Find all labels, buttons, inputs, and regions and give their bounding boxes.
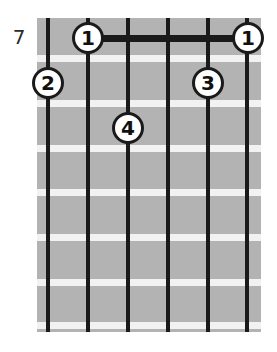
string-line (86, 18, 90, 332)
fret-line (37, 145, 261, 152)
fret-line (37, 234, 261, 241)
fret-line (37, 322, 261, 329)
string-line (166, 18, 170, 332)
finger-marker-4: 4 (112, 112, 144, 144)
finger-marker-1: 1 (72, 22, 104, 54)
string-line (206, 18, 210, 332)
string-line (245, 18, 249, 332)
chord-diagram: 11234 7 (0, 0, 277, 352)
fret-line (37, 55, 261, 62)
barre-bar (88, 35, 248, 42)
finger-marker-1: 1 (232, 22, 264, 54)
finger-marker-3: 3 (192, 67, 224, 99)
fret-position-label: 7 (8, 27, 30, 47)
fret-line (37, 279, 261, 286)
string-line (46, 18, 50, 332)
string-line (126, 18, 130, 332)
finger-marker-2: 2 (32, 67, 64, 99)
fret-line (37, 189, 261, 196)
fret-line (37, 100, 261, 107)
